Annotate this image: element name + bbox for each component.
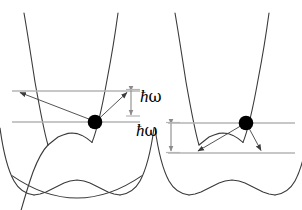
left-excited-parabola-curve xyxy=(48,133,92,145)
hbar-omega-lower-label: ħω xyxy=(136,122,158,139)
right-excited-parabola-upper-left-arm xyxy=(175,13,199,145)
left-transition-arrow-upleft xyxy=(20,93,94,122)
hbar-omega-upper-label: ħω xyxy=(140,88,162,105)
right-excited-parabola-curve xyxy=(199,133,243,145)
hbar-glyph-lower: ħ xyxy=(136,121,145,140)
left-excited-parabola-left-arm xyxy=(20,145,48,210)
right-ground-parabola-left-arm xyxy=(155,128,189,195)
omega-glyph-upper: ω xyxy=(149,87,162,106)
omega-glyph-lower: ω xyxy=(145,121,158,140)
right-ground-parabola-curve xyxy=(189,180,275,195)
right-electron-marker xyxy=(239,116,254,131)
left-electron-marker xyxy=(88,115,103,130)
left-excited-parabola-upper-left-arm xyxy=(24,13,48,145)
left-panel xyxy=(0,13,162,210)
right-ground-parabola-right-arm xyxy=(275,128,302,195)
configuration-coordinate-figure: ħω ħω xyxy=(0,0,302,210)
hbar-glyph-upper: ħ xyxy=(140,87,149,106)
right-panel xyxy=(155,13,302,195)
